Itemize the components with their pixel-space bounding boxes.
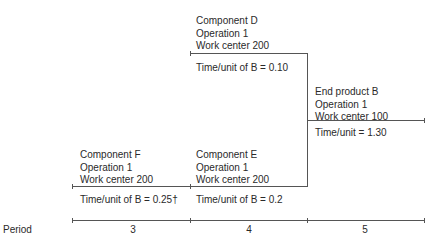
component-f-work-center: Work center 200: [80, 174, 153, 187]
component-f-name: Component F: [80, 149, 153, 162]
component-f-operation: Operation 1: [80, 162, 153, 175]
component-d-operation: Operation 1: [196, 28, 269, 41]
component-e-operation: Operation 1: [196, 162, 269, 175]
component-d-label: Component D Operation 1 Work center 200: [196, 15, 269, 53]
component-d-name: Component D: [196, 15, 269, 28]
period-4-label: 4: [244, 224, 254, 237]
period-3-label: 3: [128, 224, 138, 237]
period-axis-tick-2: [307, 218, 308, 223]
component-d-work-center: Work center 200: [196, 40, 269, 53]
assembly-connector-line: [307, 53, 308, 187]
component-e-work-center: Work center 200: [196, 174, 269, 187]
component-d-time: Time/unit of B = 0.10: [196, 62, 288, 75]
end-product-b-label: End product B Operation 1 Work center 10…: [315, 86, 388, 124]
end-product-b-time: Time/unit = 1.30: [315, 127, 387, 140]
period-axis-line: [72, 220, 425, 221]
component-d-bar-start-tick: [190, 51, 191, 56]
component-e-label: Component E Operation 1 Work center 200: [196, 149, 269, 187]
component-e-time: Time/unit of B = 0.2: [196, 194, 283, 207]
component-e-bar-start-tick: [190, 184, 191, 189]
period-axis-tick-0: [72, 218, 73, 223]
component-f-label: Component F Operation 1 Work center 200: [80, 149, 153, 187]
component-e-name: Component E: [196, 149, 269, 162]
end-product-b-bar: [307, 120, 425, 121]
period-5-label: 5: [360, 224, 370, 237]
component-f-time: Time/unit of B = 0.25†: [80, 194, 178, 207]
period-axis-tick-1: [190, 218, 191, 223]
period-axis-label: Period: [3, 224, 32, 237]
end-product-b-bar-end-tick: [424, 118, 425, 123]
end-product-b-operation: Operation 1: [315, 99, 388, 112]
end-product-b-work-center: Work center 100: [315, 111, 388, 124]
period-axis-tick-3: [424, 218, 425, 223]
component-f-bar-start-tick: [72, 184, 73, 189]
end-product-b-name: End product B: [315, 86, 388, 99]
component-d-bar: [190, 53, 308, 54]
